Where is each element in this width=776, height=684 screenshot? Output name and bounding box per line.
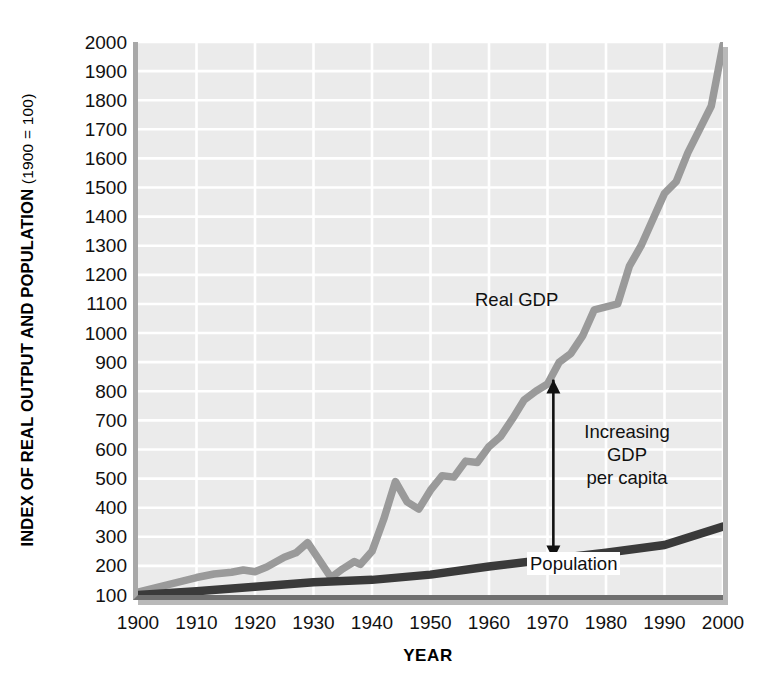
y-tick-label: 1200 — [55, 265, 127, 284]
x-axis-tick-labels: 1900191019201930194019501960197019801990… — [0, 612, 776, 638]
x-tick-label: 2000 — [678, 612, 768, 634]
annotation-line-1: Increasing — [567, 420, 687, 443]
y-tick-label: 1400 — [55, 207, 127, 226]
y-tick-label: 900 — [55, 353, 127, 372]
y-tick-label: 1600 — [55, 149, 127, 168]
y-axis-title-main: INDEX OF REAL OUTPUT AND POPULATION — [18, 189, 36, 547]
y-tick-label: 1300 — [55, 236, 127, 255]
y-tick-label: 200 — [55, 556, 127, 575]
y-axis-title-note: (1900 = 100) — [19, 93, 36, 188]
y-tick-label: 2000 — [55, 33, 127, 52]
y-tick-label: 1900 — [55, 62, 127, 81]
chart-figure: INDEX OF REAL OUTPUT AND POPULATION (190… — [0, 0, 776, 684]
y-tick-label: 300 — [55, 527, 127, 546]
y-tick-label: 1100 — [55, 294, 127, 313]
annotation-line-2: GDP — [567, 443, 687, 466]
y-axis-title: INDEX OF REAL OUTPUT AND POPULATION (190… — [14, 10, 40, 630]
series-label-population: Population — [527, 552, 620, 575]
y-tick-label: 400 — [55, 498, 127, 517]
annotation-line-3: per capita — [567, 466, 687, 489]
y-axis-tick-labels: 1002003004005006007008009001000110012001… — [55, 42, 127, 600]
series-label-real-gdp: Real GDP — [475, 288, 558, 311]
y-tick-label: 600 — [55, 440, 127, 459]
y-tick-label: 1800 — [55, 91, 127, 110]
y-tick-label: 800 — [55, 382, 127, 401]
y-tick-label: 1700 — [55, 120, 127, 139]
annotation-increasing-gdp-per-capita: Increasing GDP per capita — [567, 420, 687, 489]
y-tick-label: 1000 — [55, 324, 127, 343]
y-tick-label: 500 — [55, 469, 127, 488]
x-axis-title: YEAR — [133, 646, 723, 666]
y-tick-label: 100 — [55, 586, 127, 605]
annotation-arrow — [138, 42, 723, 595]
y-tick-label: 700 — [55, 411, 127, 430]
y-tick-label: 1500 — [55, 178, 127, 197]
plot-area — [133, 42, 723, 600]
plot-inner — [138, 42, 723, 595]
